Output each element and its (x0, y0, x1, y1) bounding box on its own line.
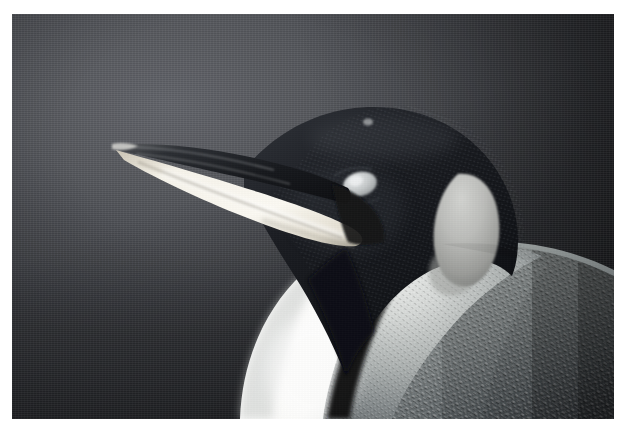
page-root (0, 0, 626, 433)
photo-grain-overlay (12, 14, 614, 419)
penguin-photograph (12, 14, 614, 419)
